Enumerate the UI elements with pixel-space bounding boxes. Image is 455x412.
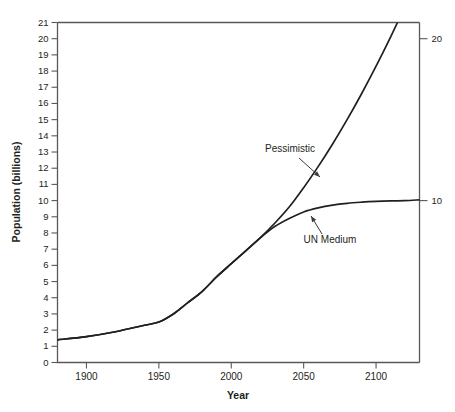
y-tick-label-9: 9 bbox=[43, 211, 48, 222]
y-tick-label-17: 17 bbox=[38, 81, 49, 92]
y-tick-label-12: 12 bbox=[38, 162, 49, 173]
y-tick-label-14: 14 bbox=[38, 130, 49, 141]
x-tick-label-1900: 1900 bbox=[75, 371, 98, 382]
y-tick-label-16: 16 bbox=[38, 97, 49, 108]
y-tick-label-5: 5 bbox=[43, 276, 48, 287]
population-projection-chart: 0123456789101112131415161718192021 1020 … bbox=[0, 0, 455, 412]
x-axis-ticks: 19001950200020502100 bbox=[75, 363, 387, 382]
y-tick-label-1: 1 bbox=[43, 340, 48, 351]
figure-container: 0123456789101112131415161718192021 1020 … bbox=[0, 0, 455, 412]
y-axis-ticks: 0123456789101112131415161718192021 bbox=[38, 17, 58, 368]
curve-annotations: PessimisticUN Medium bbox=[265, 143, 356, 245]
x-tick-label-2100: 2100 bbox=[365, 371, 388, 382]
y-tick-label-11: 11 bbox=[39, 178, 49, 189]
axis-left-bottom bbox=[58, 23, 420, 363]
y-tick-label-15: 15 bbox=[38, 114, 49, 125]
pessimistic-annotation-label: Pessimistic bbox=[265, 143, 315, 154]
curve-pessimistic bbox=[58, 0, 420, 340]
y-tick-label-21: 21 bbox=[38, 17, 49, 28]
x-axis-title: Year bbox=[227, 389, 249, 401]
y-tick-label-13: 13 bbox=[38, 146, 49, 157]
y-tick-label-7: 7 bbox=[43, 243, 48, 254]
y-tick-label-20: 20 bbox=[38, 33, 49, 44]
data-curves bbox=[58, 0, 420, 340]
un-medium-annotation-arrowhead bbox=[311, 216, 316, 222]
curve-un-medium bbox=[58, 200, 420, 340]
y-tick-label-2: 2 bbox=[43, 324, 48, 335]
y-tick-right-label-10: 10 bbox=[432, 195, 443, 206]
y-tick-label-3: 3 bbox=[43, 308, 48, 319]
y-tick-label-18: 18 bbox=[38, 65, 49, 76]
y-tick-label-0: 0 bbox=[43, 357, 48, 368]
y-axis-title: Population (billions) bbox=[10, 142, 22, 243]
y-tick-label-6: 6 bbox=[43, 259, 48, 270]
x-tick-label-2050: 2050 bbox=[293, 371, 316, 382]
y-axis-right-ticks: 1020 bbox=[420, 33, 443, 206]
plot-frame bbox=[58, 23, 420, 363]
y-tick-label-19: 19 bbox=[38, 49, 49, 60]
y-tick-right-label-20: 20 bbox=[432, 33, 443, 44]
y-tick-label-10: 10 bbox=[38, 195, 49, 206]
x-tick-label-2000: 2000 bbox=[220, 371, 243, 382]
x-tick-label-1950: 1950 bbox=[148, 371, 171, 382]
un-medium-annotation-label: UN Medium bbox=[304, 234, 357, 245]
y-tick-label-8: 8 bbox=[43, 227, 48, 238]
y-tick-label-4: 4 bbox=[43, 292, 48, 303]
